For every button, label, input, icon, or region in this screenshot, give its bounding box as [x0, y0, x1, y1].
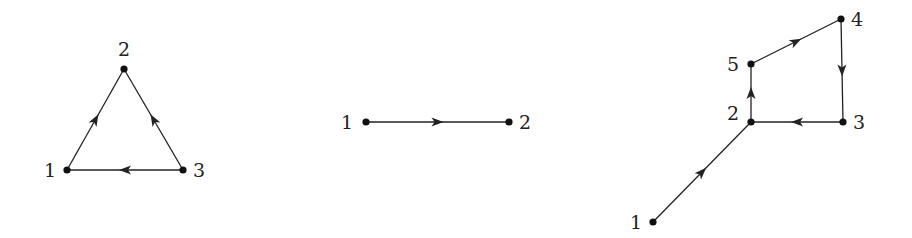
arrowhead-icon [89, 112, 103, 127]
node-label-2: 2 [118, 38, 130, 60]
node-label-3: 3 [193, 159, 205, 181]
node-1 [362, 118, 369, 125]
triangle-graph: 123 [44, 38, 205, 181]
line-graph: 12 [341, 111, 531, 133]
arrowhead-icon [789, 35, 804, 48]
node-label-2: 2 [519, 111, 531, 133]
node-2 [505, 118, 512, 125]
node-label-1: 1 [630, 211, 642, 233]
node-1 [63, 166, 70, 173]
tailed-cycle-graph: 12345 [630, 8, 865, 233]
node-3 [839, 118, 846, 125]
node-5 [747, 60, 754, 67]
node-4 [837, 15, 844, 22]
node-label-3: 3 [853, 111, 865, 133]
node-label-1: 1 [341, 111, 353, 133]
node-1 [649, 218, 656, 225]
node-3 [179, 166, 186, 173]
node-2 [120, 65, 127, 72]
node-label-2: 2 [727, 102, 739, 124]
node-label-1: 1 [44, 159, 56, 181]
node-2 [747, 118, 754, 125]
graph-diagrams: 123 12 12345 [0, 0, 912, 238]
node-label-4: 4 [851, 8, 863, 30]
arrowhead-icon [147, 112, 161, 127]
node-label-5: 5 [727, 53, 739, 75]
